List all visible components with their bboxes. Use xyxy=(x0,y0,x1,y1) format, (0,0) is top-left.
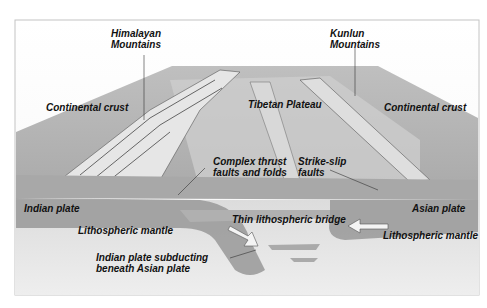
label-strike-slip-faults: Strike-slip faults xyxy=(298,156,346,178)
label-line: Mountains xyxy=(111,39,161,50)
label-continental-crust-right: Continental crust xyxy=(384,102,466,113)
label-kunlun-mountains: Kunlun Mountains xyxy=(330,28,380,50)
label-thin-lithospheric-bridge: Thin lithospheric bridge xyxy=(232,214,346,225)
label-line: Complex thrust xyxy=(213,156,287,167)
label-indian-plate: Indian plate xyxy=(24,203,80,214)
label-line: faults and folds xyxy=(213,167,287,178)
label-continental-crust-left: Continental crust xyxy=(46,102,128,113)
label-line: Indian plate subducting xyxy=(96,252,208,263)
label-line: beneath Asian plate xyxy=(96,263,208,274)
label-tibetan-plateau: Tibetan Plateau xyxy=(248,99,322,110)
label-lithospheric-mantle-left: Lithospheric mantle xyxy=(78,225,173,236)
label-lithospheric-mantle-right: Lithospheric mantle xyxy=(383,230,478,241)
label-asian-plate: Asian plate xyxy=(412,203,465,214)
diagram-canvas: Himalayan Mountains Kunlun Mountains Con… xyxy=(0,0,487,308)
label-line: Himalayan xyxy=(111,28,161,39)
label-line: Strike-slip xyxy=(298,156,346,167)
label-line: faults xyxy=(298,167,346,178)
label-line: Kunlun xyxy=(330,28,380,39)
label-himalayan-mountains: Himalayan Mountains xyxy=(111,28,161,50)
label-indian-plate-subducting: Indian plate subducting beneath Asian pl… xyxy=(96,252,208,274)
cross-section-illustration xyxy=(0,0,487,308)
label-line: Mountains xyxy=(330,39,380,50)
label-complex-thrust-faults: Complex thrust faults and folds xyxy=(213,156,287,178)
